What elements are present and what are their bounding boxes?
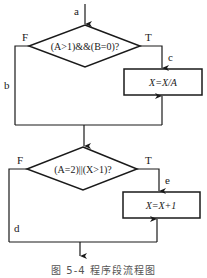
- path-label-e: e: [165, 174, 170, 186]
- entry-label: a: [74, 5, 79, 17]
- figure-caption: 图 5-4 程序段流程图: [0, 262, 207, 277]
- decision1-false-label: F: [22, 31, 28, 43]
- decision1-true-line: [140, 46, 162, 68]
- decision1-true-label: T: [145, 31, 152, 43]
- decision2-condition: (A=2)||(X>1)?: [54, 164, 112, 176]
- path-label-c: c: [168, 51, 173, 63]
- decision2-false-label: F: [17, 154, 23, 166]
- process2-text: X=X+1: [145, 200, 177, 211]
- path-label-d: d: [14, 222, 20, 234]
- decision2-true-line: [137, 169, 159, 191]
- path-label-b: b: [4, 79, 10, 91]
- flowchart: a (A>1)&&(B=0)? F T b c X=X/A (A=2)||(X>…: [0, 0, 207, 278]
- decision1-false-line: [15, 46, 29, 125]
- decision1-condition: (A>1)&&(B=0)?: [51, 41, 120, 53]
- process1-text: X=X/A: [148, 77, 178, 88]
- decision2-true-label: T: [145, 154, 152, 166]
